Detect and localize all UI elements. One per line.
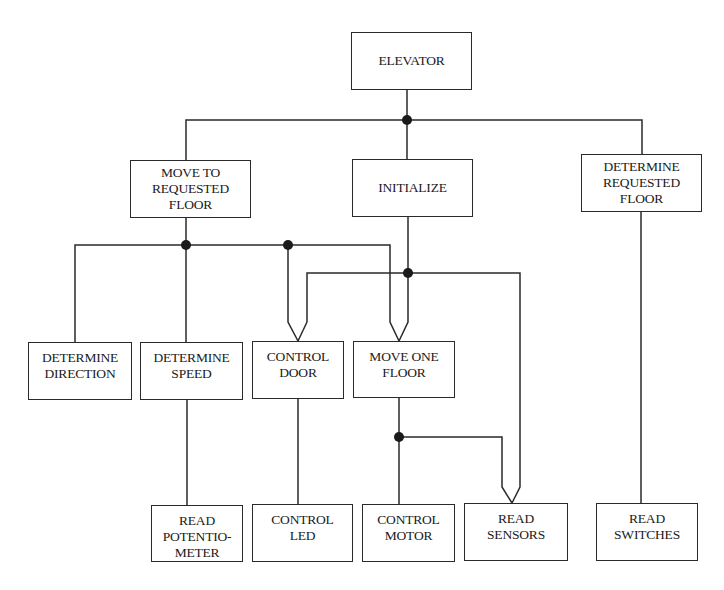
node-elevator: ELEVATOR bbox=[351, 32, 472, 90]
node-label: FLOOR bbox=[382, 365, 425, 381]
node-label: LED bbox=[290, 528, 316, 544]
node-label: MOTOR bbox=[385, 528, 433, 544]
node-label: POTENTIO- bbox=[163, 529, 232, 545]
node-move-to-requested-floor: MOVE TO REQUESTED FLOOR bbox=[130, 160, 251, 218]
node-label: INITIALIZE bbox=[378, 180, 446, 196]
node-label: READ bbox=[498, 511, 534, 527]
node-label: DETERMINE bbox=[153, 350, 229, 366]
node-determine-requested-floor: DETERMINE REQUESTED FLOOR bbox=[581, 154, 702, 212]
junction-dot bbox=[394, 432, 404, 442]
figure-caption bbox=[84, 583, 704, 590]
node-label: MOVE ONE bbox=[369, 349, 438, 365]
node-label: CONTROL bbox=[271, 512, 333, 528]
node-label: SPEED bbox=[171, 366, 211, 382]
node-move-one-floor: MOVE ONE FLOOR bbox=[353, 341, 455, 398]
junction-dot bbox=[181, 240, 191, 250]
node-control-motor: CONTROL MOTOR bbox=[362, 504, 455, 562]
node-label: DETERMINE bbox=[603, 159, 679, 175]
node-label: SENSORS bbox=[487, 527, 545, 543]
node-read-switches: READ SWITCHES bbox=[596, 503, 698, 561]
node-label: DETERMINE bbox=[42, 350, 118, 366]
node-label: READ bbox=[179, 513, 215, 529]
node-label: SWITCHES bbox=[614, 527, 680, 543]
node-initialize: INITIALIZE bbox=[352, 159, 473, 217]
node-label: REQUESTED bbox=[603, 175, 680, 191]
junction-dot bbox=[402, 115, 412, 125]
node-label: DOOR bbox=[279, 365, 316, 381]
node-label: METER bbox=[175, 545, 220, 561]
node-label: CONTROL bbox=[377, 512, 439, 528]
node-label: FLOOR bbox=[620, 191, 663, 207]
node-label: DIRECTION bbox=[45, 366, 116, 382]
node-label: MOVE TO bbox=[161, 165, 220, 181]
node-label: CONTROL bbox=[267, 349, 329, 365]
node-control-led: CONTROL LED bbox=[252, 504, 353, 562]
node-label: FLOOR bbox=[169, 197, 212, 213]
node-determine-speed: DETERMINE SPEED bbox=[140, 342, 243, 400]
node-label: ELEVATOR bbox=[378, 53, 444, 69]
node-read-sensors: READ SENSORS bbox=[464, 503, 568, 561]
node-control-door: CONTROL DOOR bbox=[252, 341, 344, 399]
node-label: READ bbox=[629, 511, 665, 527]
node-determine-direction: DETERMINE DIRECTION bbox=[28, 342, 132, 400]
node-label: REQUESTED bbox=[152, 181, 229, 197]
junction-dot bbox=[403, 268, 413, 278]
node-read-potentiometer: READ POTENTIO- METER bbox=[151, 505, 243, 562]
junction-dot bbox=[283, 240, 293, 250]
